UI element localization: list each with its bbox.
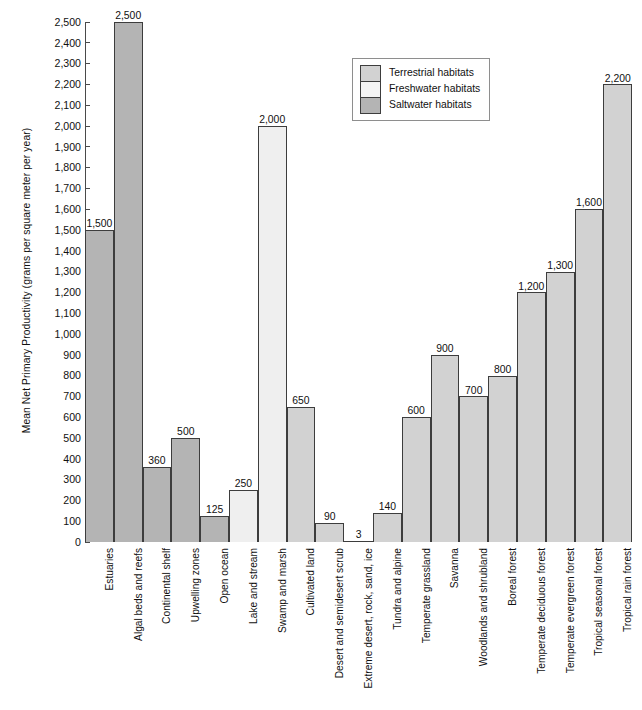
x-axis-label-slot: Tropical rain forest [603, 548, 632, 706]
x-axis-label: Tropical rain forest [622, 548, 633, 632]
y-axis-tick-label: 1,600 [54, 203, 85, 214]
bar-value-label: 800 [494, 365, 511, 375]
bar[interactable]: 250 [229, 490, 258, 542]
legend-swatch-freshwater [361, 81, 380, 97]
bar[interactable]: 140 [373, 513, 402, 542]
y-axis-tick-label: 2,200 [54, 79, 85, 90]
x-axis-label-slot: Tundra and alpine [373, 548, 402, 706]
x-axis-label-slot: Lake and stream [229, 548, 258, 706]
y-axis-tick-label: 500 [63, 432, 85, 443]
bar-value-label: 90 [324, 512, 336, 522]
bar-value-label: 140 [379, 502, 396, 512]
bar[interactable]: 500 [171, 438, 200, 542]
y-axis-tick-label: 600 [63, 411, 85, 422]
legend-label-freshwater: Freshwater habitats [389, 81, 480, 97]
y-axis-tick-label: 1,200 [54, 287, 85, 298]
bar-slot: 2,200 [603, 22, 632, 542]
bar-value-label: 1,600 [576, 198, 602, 208]
bar-value-label: 500 [177, 427, 194, 437]
bar-slot: 800 [488, 22, 517, 542]
x-axis-label-slot: Swamp and marsh [258, 548, 287, 706]
x-axis-label-slot: Cultivated land [287, 548, 316, 706]
bar[interactable]: 2,200 [603, 84, 632, 542]
bar-value-label: 600 [407, 406, 424, 416]
x-axis-label-slot: Desert and semidesert scrub [315, 548, 344, 706]
y-axis-tick-label: 2,500 [54, 16, 85, 27]
y-axis-tick-label: 1,800 [54, 162, 85, 173]
bar-value-label: 125 [206, 505, 223, 515]
x-axis-label-slot: Boreal forest [488, 548, 517, 706]
x-axis-label-slot: Temperate evergreen forest [546, 548, 575, 706]
y-axis-tick-label: 2,300 [54, 58, 85, 69]
bar-slot: 1,200 [517, 22, 546, 542]
y-axis-tick-label: 2,000 [54, 120, 85, 131]
bar-slot: 1,500 [85, 22, 114, 542]
y-axis-tick-label: 0 [75, 536, 85, 547]
legend-swatch-stack [360, 65, 381, 114]
y-axis-tick-label: 1,900 [54, 141, 85, 152]
legend-label-stack: Terrestrial habitatsFreshwater habitatsS… [389, 65, 480, 114]
x-axis-label-slot: Continental shelf [143, 548, 172, 706]
y-axis-tick-label: 800 [63, 370, 85, 381]
bar[interactable]: 1,600 [575, 209, 604, 542]
legend-label-saltwater: Saltwater habitats [389, 97, 480, 113]
y-axis-tick-label: 2,400 [54, 37, 85, 48]
chart-legend: Terrestrial habitatsFreshwater habitatsS… [352, 58, 490, 121]
chart-figure: Mean Net Primary Productivity (grams per… [0, 0, 642, 710]
bar-slot: 1,600 [575, 22, 604, 542]
x-axis-label-slot: Extreme desert, rock, sand, ice [344, 548, 373, 706]
bar-value-label: 3 [356, 530, 362, 540]
x-axis-label-slot: Woodlands and shrubland [459, 548, 488, 706]
y-axis-tick-label: 2,100 [54, 99, 85, 110]
bar-value-label: 700 [465, 386, 482, 396]
bar-slot: 125 [200, 22, 229, 542]
bar-value-label: 1,500 [86, 219, 112, 229]
x-axis-label-slot: Tropical seasonal forest [575, 548, 604, 706]
bar[interactable]: 3 [344, 541, 373, 542]
bar[interactable]: 1,500 [85, 230, 114, 542]
bar-slot: 360 [143, 22, 172, 542]
x-axis-label-slot: Open ocean [200, 548, 229, 706]
bar[interactable]: 650 [287, 407, 316, 542]
bar[interactable]: 700 [459, 396, 488, 542]
x-axis-label-slot: Estuaries [85, 548, 114, 706]
x-axis-label-slot: Algal beds and reefs [114, 548, 143, 706]
bar-slot: 90 [315, 22, 344, 542]
bar-value-label: 650 [292, 396, 309, 406]
bar[interactable]: 2,500 [114, 22, 143, 542]
bar-value-label: 2,500 [115, 11, 141, 21]
bar-value-label: 1,200 [518, 282, 544, 292]
bar[interactable]: 800 [488, 376, 517, 542]
y-axis-tick-label: 200 [63, 495, 85, 506]
bar[interactable]: 360 [143, 467, 172, 542]
bar-slot: 2,500 [114, 22, 143, 542]
legend-swatch-terrestrial [361, 66, 380, 81]
bar[interactable]: 1,300 [546, 272, 575, 542]
y-axis-tick-label: 1,000 [54, 328, 85, 339]
bar[interactable]: 90 [315, 523, 344, 542]
y-axis-tick-label: 1,500 [54, 224, 85, 235]
bar-value-label: 360 [148, 456, 165, 466]
y-axis-tick-label: 1,100 [54, 307, 85, 318]
y-axis-tick-label: 1,300 [54, 266, 85, 277]
bar-value-label: 900 [436, 344, 453, 354]
bar[interactable]: 900 [431, 355, 460, 542]
bar-value-label: 250 [235, 479, 252, 489]
legend-swatch-saltwater [361, 97, 380, 113]
bar[interactable]: 1,200 [517, 292, 546, 542]
bar-value-label: 2,000 [259, 115, 285, 125]
x-axis-label-slot: Temperate deciduous forest [517, 548, 546, 706]
bar[interactable]: 2,000 [258, 126, 287, 542]
bar-value-label: 2,200 [605, 74, 631, 84]
y-axis-tick-label: 900 [63, 349, 85, 360]
y-axis-tick-label: 100 [63, 515, 85, 526]
bar[interactable]: 600 [402, 417, 431, 542]
y-axis-tick-label: 300 [63, 474, 85, 485]
bar[interactable]: 125 [200, 516, 229, 542]
bar-slot: 250 [229, 22, 258, 542]
y-axis-tick-label: 400 [63, 453, 85, 464]
y-axis-title-text: Mean Net Primary Productivity (grams per… [22, 127, 33, 433]
x-axis-labels: EstuariesAlgal beds and reefsContinental… [85, 548, 632, 706]
x-axis-label-slot: Savanna [431, 548, 460, 706]
x-axis-label-slot: Temperate grassland [402, 548, 431, 706]
